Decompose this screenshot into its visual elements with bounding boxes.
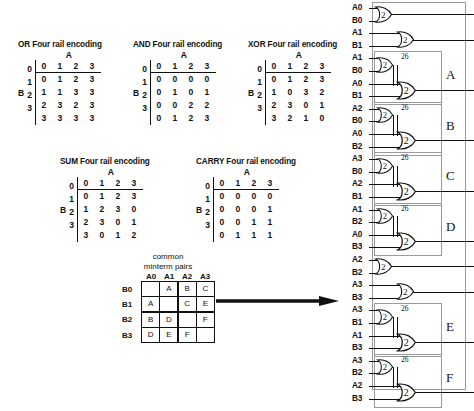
table-cell: 0 — [214, 216, 230, 229]
table-row: 0000 — [214, 190, 279, 203]
table-rows-and: 0000010100220123 — [151, 72, 216, 125]
truth-table-xor: XOR Four rail encodingB0123A012301231032… — [248, 40, 337, 125]
block-number: 26 — [401, 304, 409, 313]
minterm-cell: F — [196, 312, 215, 328]
table-row: 3333 — [36, 112, 101, 125]
circuit-input-label: B2 — [352, 368, 369, 377]
circuit-input-label: A2 — [352, 179, 369, 188]
column-headers-or: 0123 — [36, 60, 101, 72]
threshold-gate: 2 — [376, 106, 394, 124]
circuit-input-label: B0 — [352, 66, 369, 75]
column-headers-carry: 0123 — [214, 177, 279, 189]
table-cell: 0 — [282, 86, 298, 99]
table-cell: 1 — [282, 73, 298, 86]
minterm-title-line2: minterm pairs — [122, 262, 214, 272]
table-cell: 2 — [68, 99, 84, 112]
table-cell: 3 — [36, 112, 52, 125]
minterm-cell: C — [196, 281, 215, 297]
table-cell: 3 — [126, 190, 142, 203]
minterm-row: B2BDF — [122, 312, 215, 327]
table-title-sum: SUM Four rail encoding — [60, 157, 150, 166]
table-cell: 3 — [84, 73, 100, 86]
gate-threshold-value: 2 — [383, 160, 387, 170]
minterm-cell — [178, 312, 197, 328]
b-axis-label-carry: B — [196, 196, 205, 215]
truth-table-and: AND Four rail encodingB0123A012300000101… — [133, 40, 222, 125]
gate-threshold-value: 2 — [404, 337, 409, 348]
table-cell: 1 — [314, 99, 330, 112]
threshold-gate: 2 — [396, 382, 417, 403]
table-cell: 1 — [298, 112, 314, 125]
block-number: 26 — [401, 103, 409, 112]
table-cell: 0 — [167, 73, 183, 86]
table-title-or: OR Four rail encoding — [18, 40, 102, 49]
column-header: 1 — [167, 60, 183, 72]
circuit-input-label: A3 — [352, 280, 369, 289]
row-header: 3 — [257, 102, 265, 115]
table-cell: 3 — [68, 86, 84, 99]
circuit-input-label: B0 — [352, 116, 369, 125]
table-cell: 0 — [78, 190, 94, 203]
circuit-input-label: A0 — [352, 230, 369, 239]
gate-threshold-value: 2 — [383, 312, 387, 322]
column-header: 1 — [282, 60, 298, 72]
table-cell: 0 — [151, 73, 167, 86]
minterm-cell: A — [141, 296, 160, 312]
minterm-rows: B0ABCB1ACEB2BDFB3DEF — [122, 282, 215, 343]
circuit-input-label: A2 — [352, 104, 369, 113]
table-row: 3210 — [266, 112, 331, 125]
common-minterm-pairs-grid: common minterm pairs A0A1A2A3 B0ABCB1ACE… — [122, 252, 215, 343]
row-headers-xor: 0123 — [257, 51, 265, 115]
block-output-wire — [415, 241, 474, 242]
table-cell: 0 — [214, 190, 230, 203]
column-header: 3 — [199, 60, 215, 72]
column-header: 1 — [94, 177, 110, 189]
table-cell: 1 — [246, 229, 262, 242]
threshold-gate: 2 — [376, 56, 394, 74]
table-title-carry: CARRY Four rail encoding — [196, 157, 296, 166]
column-headers-and: 0123 — [151, 60, 216, 72]
minterm-cell: F — [178, 327, 197, 343]
row-header: 2 — [205, 206, 213, 219]
minterm-cell: E — [159, 327, 178, 343]
table-cell: 0 — [230, 190, 246, 203]
table-cell: 1 — [110, 229, 126, 242]
column-header: 3 — [84, 60, 100, 72]
table-cell: 3 — [84, 112, 100, 125]
a-axis-label-and: A — [152, 51, 216, 60]
table-cell: 2 — [183, 112, 199, 125]
table-cell: 1 — [262, 229, 278, 242]
table-rows-xor: 0123103223013210 — [266, 72, 331, 125]
minterm-cell: D — [159, 312, 178, 328]
block-number: 26 — [401, 204, 409, 213]
minterm-row-header: B3 — [122, 328, 142, 343]
table-cell: 1 — [78, 203, 94, 216]
column-header: 1 — [52, 60, 68, 72]
table-cell: 0 — [214, 203, 230, 216]
row-header: 1 — [69, 193, 77, 206]
inter-gate-link — [393, 317, 398, 338]
gate-threshold-value: 2 — [403, 35, 408, 45]
table-rows-sum: 0123123023013012 — [78, 189, 143, 242]
table-cell: 2 — [110, 190, 126, 203]
column-header: 0 — [266, 60, 282, 72]
minterm-row: B3DEF — [122, 328, 215, 343]
column-header: 3 — [314, 60, 330, 72]
gate-threshold-value: 2 — [404, 186, 409, 197]
table-cell: 1 — [230, 229, 246, 242]
table-cell: 1 — [52, 73, 68, 86]
circuit-input-label: A2 — [352, 255, 369, 264]
circuit-input-label: B2 — [352, 268, 369, 277]
threshold-gate: 2 — [376, 207, 394, 225]
row-header: 3 — [27, 102, 35, 115]
row-header: 2 — [27, 89, 35, 102]
table-cell: 3 — [110, 203, 126, 216]
column-header: 2 — [246, 177, 262, 189]
column-header: 2 — [298, 60, 314, 72]
circuit-input-label: A1 — [352, 205, 369, 214]
circuit-input-label: B2 — [352, 217, 369, 226]
table-cell: 3 — [52, 99, 68, 112]
column-header: 2 — [110, 177, 126, 189]
circuit-input-label: A0 — [352, 3, 369, 12]
column-header: 3 — [262, 177, 278, 189]
